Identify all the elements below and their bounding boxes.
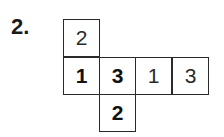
net-cell-top: 2	[63, 19, 100, 57]
problem-number-label: 2.	[11, 15, 29, 39]
net-cell-row-1: 1	[63, 57, 100, 95]
net-cell-row-2: 3	[99, 57, 136, 95]
net-cell-row-3: 1	[135, 57, 172, 95]
net-cell-bottom: 2	[99, 94, 136, 132]
net-cell-row-4: 3	[172, 57, 209, 95]
